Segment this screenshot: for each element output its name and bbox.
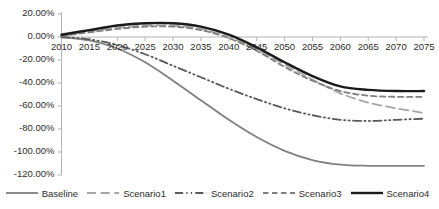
y-tick-label: -60.00%	[0, 99, 55, 110]
legend-item-scenario2[interactable]: Scenario2	[174, 188, 254, 199]
legend-label: Scenario1	[123, 188, 166, 199]
legend-label: Scenario4	[387, 188, 430, 199]
legend-swatch-scenario1	[86, 188, 120, 198]
legend-item-scenario3[interactable]: Scenario3	[262, 188, 342, 199]
legend-swatch-baseline	[5, 188, 39, 198]
legend-item-scenario4[interactable]: Scenario4	[350, 188, 430, 199]
y-tick-label: -100.00%	[0, 145, 55, 156]
legend-label: Scenario2	[211, 188, 254, 199]
y-tick-label: -40.00%	[0, 76, 55, 87]
legend-swatch-scenario4	[350, 188, 384, 198]
series-line-scenario1	[62, 25, 425, 113]
series-line-scenario4	[62, 23, 425, 91]
legend-swatch-scenario3	[262, 188, 296, 198]
x-tick-label: 2075	[408, 41, 439, 52]
y-tick-label: -80.00%	[0, 122, 55, 133]
legend-label: Baseline	[42, 188, 78, 199]
legend-label: Scenario3	[299, 188, 342, 199]
y-tick-label: -20.00%	[0, 53, 55, 64]
y-tick-label: 0.00%	[0, 30, 55, 41]
legend-item-baseline[interactable]: Baseline	[5, 188, 78, 199]
legend-item-scenario1[interactable]: Scenario1	[86, 188, 166, 199]
series-line-baseline	[62, 37, 425, 166]
y-tick-label: -120.00%	[0, 168, 55, 179]
y-tick-label: 20.00%	[0, 7, 55, 18]
legend-swatch-scenario2	[174, 188, 208, 198]
chart-legend: BaselineScenario1Scenario2Scenario3Scena…	[0, 182, 434, 204]
